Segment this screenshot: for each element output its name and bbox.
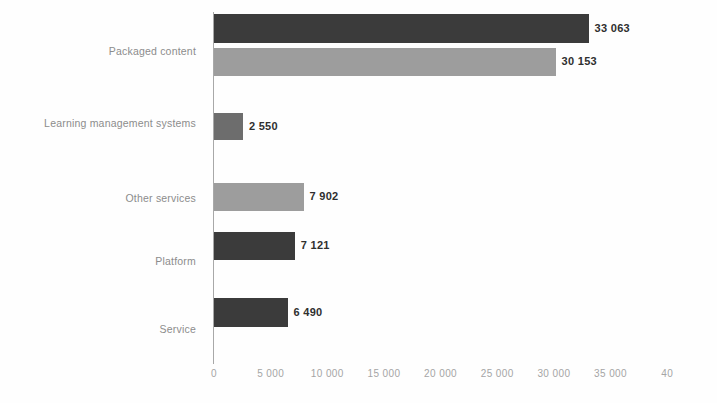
- bar-value-label: 6 490: [294, 306, 323, 318]
- bar: [214, 232, 295, 260]
- category-label: Other services: [0, 192, 196, 204]
- bar-value-label: 7 902: [310, 190, 339, 202]
- x-tick-label: 30 000: [537, 368, 570, 379]
- bar: [214, 298, 288, 327]
- category-label: Packaged content: [0, 45, 196, 57]
- x-tick-label: 15 000: [367, 368, 400, 379]
- bar: [214, 113, 243, 140]
- category-label: Service: [0, 323, 196, 335]
- bar-value-label: 2 550: [249, 120, 278, 132]
- bar: [214, 183, 304, 211]
- x-tick-label: 10 000: [311, 368, 344, 379]
- bar-value-label: 30 153: [562, 55, 597, 67]
- bar: [214, 48, 556, 76]
- x-tick-label: 25 000: [481, 368, 514, 379]
- x-tick-label: 40: [661, 368, 673, 379]
- plot-area: Packaged contentLearning management syst…: [0, 0, 717, 403]
- bar-chart-figure: Packaged contentLearning management syst…: [0, 0, 717, 403]
- bar: [214, 14, 589, 43]
- bar-value-label: 33 063: [595, 22, 630, 34]
- category-label: Learning management systems: [0, 117, 196, 129]
- bar-value-label: 7 121: [301, 239, 330, 251]
- x-tick-label: 5 000: [257, 368, 284, 379]
- x-tick-label: 35 000: [594, 368, 627, 379]
- category-label: Platform: [0, 255, 196, 267]
- x-tick-label: 20 000: [424, 368, 457, 379]
- x-tick-label: 0: [211, 368, 217, 379]
